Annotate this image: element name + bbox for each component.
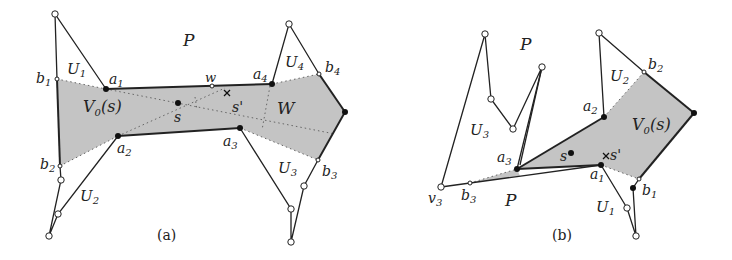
label-a4: a4 bbox=[253, 66, 268, 84]
label-U1: U1 bbox=[67, 60, 86, 79]
label-W: W bbox=[277, 98, 296, 118]
label-a2: a2 bbox=[117, 140, 132, 158]
figure: P V0(s) W w s s' a1 a2 a3 a4 b1 b2 b3 b4… bbox=[0, 0, 732, 260]
label-b1: b1 bbox=[36, 70, 51, 88]
point-s-a bbox=[175, 100, 181, 106]
label-P-bottom: P bbox=[504, 190, 517, 210]
label-b2: b2 bbox=[40, 156, 55, 174]
label-V0s: V0(s) bbox=[83, 97, 122, 118]
label-V0s-b: V0(s) bbox=[632, 115, 671, 136]
label-U1-b: U1 bbox=[596, 198, 615, 217]
label-b4: b4 bbox=[325, 59, 340, 77]
label-a3-b: a3 bbox=[497, 149, 512, 167]
label-b2-b: b2 bbox=[648, 56, 663, 74]
label-a2-b: a2 bbox=[583, 98, 598, 116]
caption-a: (a) bbox=[157, 227, 176, 243]
label-s-prime: s' bbox=[232, 99, 243, 115]
panel-b: P P V0(s) s s' v3 a1 a2 a3 b1 b2 b3 U1 U… bbox=[428, 30, 697, 243]
label-a1: a1 bbox=[109, 71, 124, 89]
label-w: w bbox=[205, 70, 216, 85]
label-P-top: P bbox=[519, 34, 532, 54]
point-s-b bbox=[568, 150, 574, 156]
label-U3: U3 bbox=[278, 159, 297, 178]
label-b3: b3 bbox=[322, 163, 337, 181]
label-a3: a3 bbox=[223, 133, 238, 151]
label-b3-b: b3 bbox=[461, 187, 476, 205]
label-s-prime-b: s' bbox=[610, 147, 621, 163]
panel-a: P V0(s) W w s s' a1 a2 a3 a4 b1 b2 b3 b4… bbox=[36, 11, 348, 245]
caption-b: (b) bbox=[552, 227, 572, 243]
label-U4: U4 bbox=[285, 53, 304, 72]
label-s-b: s bbox=[560, 148, 567, 164]
visibility-sliver-b bbox=[470, 169, 520, 183]
label-v3: v3 bbox=[428, 190, 442, 208]
label-U2: U2 bbox=[80, 187, 99, 206]
label-U3-b: U3 bbox=[470, 121, 489, 140]
label-s: s bbox=[174, 109, 181, 125]
label-P: P bbox=[182, 30, 195, 50]
visibility-region-a bbox=[57, 74, 345, 166]
label-b1-b: b1 bbox=[642, 182, 657, 200]
label-U2-b: U2 bbox=[610, 67, 629, 86]
